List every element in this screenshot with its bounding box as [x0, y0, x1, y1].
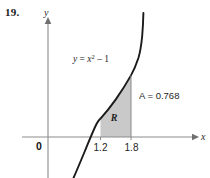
figure-container: 19. y x 0 1.2 1.8 y = x2 – 1 [0, 0, 210, 178]
xtick-label-2: 1.8 [125, 142, 139, 153]
area-annotation: A = 0.768 [139, 90, 179, 101]
y-axis-label: y [43, 7, 49, 18]
graph-plot: y x 0 1.2 1.8 y = x2 – 1 R A = 0.768 [0, 0, 210, 178]
x-axis-label: x [200, 131, 206, 142]
xtick-label-1: 1.2 [94, 142, 108, 153]
x-axis-arrow-icon [192, 134, 199, 141]
equation-equals: = [77, 54, 87, 64]
function-equation-label: y = x2 – 1 [72, 53, 109, 65]
y-axis-arrow-icon [45, 17, 52, 24]
equation-rest: – 1 [95, 54, 110, 64]
origin-label: 0 [36, 140, 42, 152]
region-label-R: R [110, 112, 118, 123]
parabola-curve [74, 13, 144, 178]
